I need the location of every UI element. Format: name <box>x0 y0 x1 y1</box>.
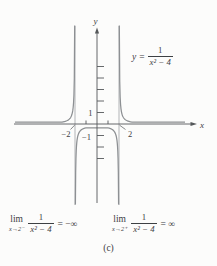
equation-equals: = <box>139 52 144 62</box>
y-axis-ticks <box>97 67 104 159</box>
fraction-numerator: 1 <box>140 213 148 223</box>
equation-denominator: x² − 4 <box>148 56 173 67</box>
limit-statement-right: lim x→2⁺ 1 x² − 4 = ∞ <box>112 213 175 234</box>
figure-caption: (c) <box>0 243 217 253</box>
leader-line-2 <box>120 125 126 129</box>
equation-lhs: y <box>132 52 136 62</box>
equation-fraction: 1 x² − 4 <box>148 46 173 67</box>
lim-text: lim <box>10 215 23 225</box>
y-axis-arrowhead-icon <box>95 28 99 34</box>
y-tick-label-1: 1 <box>88 108 92 118</box>
limit-operator-left: lim x→2⁻ <box>9 215 24 232</box>
lim-subscript: x→2⁺ <box>112 226 127 232</box>
leader-line-neg2 <box>71 125 75 129</box>
lim-subscript: x→2⁻ <box>9 226 24 232</box>
limit-result-right: = ∞ <box>161 219 176 229</box>
function-graph: y x 1 −1 −2 2 <box>0 0 217 210</box>
fraction-numerator: 1 <box>37 213 45 223</box>
limit-result-left: = −∞ <box>58 219 78 229</box>
x-tick-label-neg2: −2 <box>61 129 70 139</box>
x-axis-label: x <box>199 120 204 130</box>
limit-operator-right: lim x→2⁺ <box>112 215 127 232</box>
x-axis-arrowhead-icon <box>191 122 198 126</box>
equation-numerator: 1 <box>156 46 164 56</box>
y-tick-label-neg1: −1 <box>82 132 91 142</box>
fraction-denominator: x² − 4 <box>131 223 156 234</box>
limit-fraction-right: 1 x² − 4 <box>131 213 156 234</box>
lim-text: lim <box>113 215 126 225</box>
curve-branch-right <box>119 26 185 123</box>
equation-label: y = 1 x² − 4 <box>132 46 173 67</box>
x-tick-label-2: 2 <box>128 129 132 139</box>
fraction-denominator: x² − 4 <box>28 223 53 234</box>
limit-fraction-left: 1 x² − 4 <box>28 213 53 234</box>
y-axis-label: y <box>93 16 98 26</box>
limit-statement-left: lim x→2⁻ 1 x² − 4 = −∞ <box>9 213 77 234</box>
figure-rational-function-limits: y x 1 −1 −2 2 y = 1 x² − 4 lim x→2⁻ 1 x²… <box>0 0 217 266</box>
curve-branch-left <box>15 26 75 123</box>
